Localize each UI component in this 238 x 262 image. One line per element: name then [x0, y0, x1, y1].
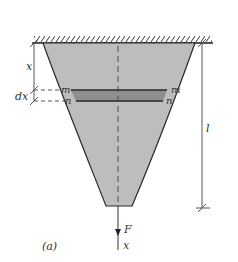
label-n-right: n	[166, 95, 172, 106]
label-axis-x: x	[123, 239, 130, 252]
label-dx: dx	[15, 90, 29, 103]
label-m-left: m	[61, 84, 70, 95]
label-x: x	[26, 60, 33, 73]
tapered-bar-diagram: x dx m n m n l F x (a)	[0, 0, 238, 262]
differential-element-strip	[71, 90, 167, 101]
tapered-bar-body	[43, 43, 195, 206]
label-m-right: m	[171, 84, 180, 95]
label-length: l	[206, 122, 210, 135]
label-n-left: n	[65, 95, 71, 106]
figure-caption: (a)	[42, 240, 57, 253]
fixed-support	[32, 36, 213, 43]
force-arrow	[115, 206, 121, 250]
label-force: F	[123, 223, 132, 236]
